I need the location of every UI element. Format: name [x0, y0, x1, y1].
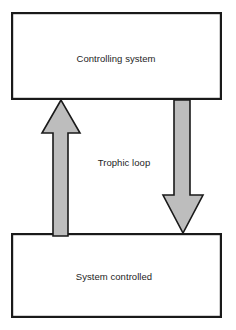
diagram-canvas: Controlling system Trophic loop System c… — [0, 0, 236, 330]
node-system-controlled[interactable] — [12, 234, 221, 317]
node-controlling-system[interactable] — [12, 13, 221, 99]
diagram-vector-layer — [0, 0, 236, 330]
downward-arrow-icon[interactable] — [163, 100, 203, 233]
upward-arrow-icon[interactable] — [42, 100, 80, 236]
